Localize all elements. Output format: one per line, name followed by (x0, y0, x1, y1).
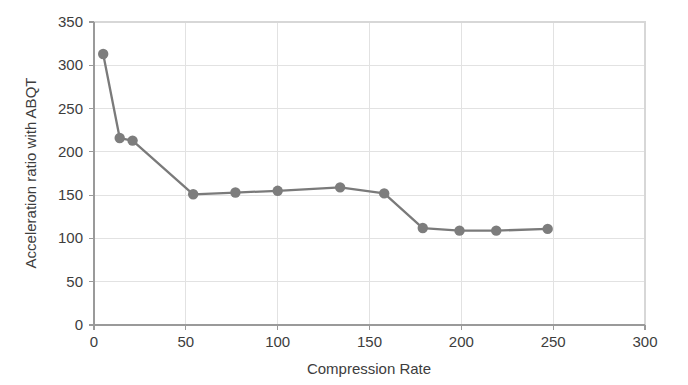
y-tick-label: 200 (58, 143, 83, 160)
data-point-marker: (199, 109) (454, 225, 464, 235)
y-tick-label: 0 (75, 316, 83, 333)
x-axis-title: Compression Rate (307, 360, 431, 377)
data-point-marker: (100, 155) (272, 186, 282, 196)
data-point-marker: (54, 151) (188, 189, 198, 199)
x-tick-label: 200 (449, 333, 474, 350)
data-point-marker: (5, 313) (98, 49, 108, 59)
y-tick-label: 150 (58, 186, 83, 203)
y-tick-label: 50 (66, 273, 83, 290)
y-tick-label: 100 (58, 229, 83, 246)
data-point-marker: (14, 216) (115, 133, 125, 143)
x-tick-label: 150 (357, 333, 382, 350)
y-tick-label: 350 (58, 13, 83, 30)
y-axis-title: Acceleration ratio with ABQT (22, 78, 39, 269)
data-point-marker: (247, 111) (542, 224, 552, 234)
chart-container: (5, 313)(14, 216)(21, 213)(54, 151)(77, … (0, 0, 688, 385)
x-tick-label: 100 (265, 333, 290, 350)
x-tick-label: 0 (90, 333, 98, 350)
x-tick-label: 250 (541, 333, 566, 350)
data-point-marker: (219, 109) (491, 225, 501, 235)
x-tick-label: 50 (177, 333, 194, 350)
y-tick-label: 250 (58, 100, 83, 117)
data-point-marker: (77, 153) (230, 187, 240, 197)
data-point-marker: (21, 213) (127, 135, 137, 145)
data-point-marker: (179, 112) (418, 223, 428, 233)
line-chart: (5, 313)(14, 216)(21, 213)(54, 151)(77, … (0, 0, 688, 385)
data-point-marker: (158, 152) (379, 188, 389, 198)
x-tick-label: 300 (632, 333, 657, 350)
data-point-marker: (134, 159) (335, 182, 345, 192)
y-tick-label: 300 (58, 56, 83, 73)
